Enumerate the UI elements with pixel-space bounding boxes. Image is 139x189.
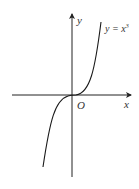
y-axis-label: y bbox=[76, 14, 82, 26]
x-axis-label: x bbox=[123, 98, 129, 110]
cubic-graph: y x O y = x3 bbox=[0, 0, 139, 189]
origin-label: O bbox=[77, 99, 85, 111]
curve-label: y = x3 bbox=[104, 23, 129, 34]
